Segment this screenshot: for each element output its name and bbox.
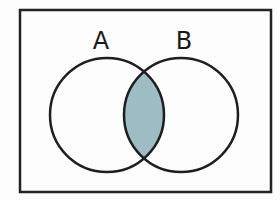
venn-diagram: A B (0, 0, 280, 200)
venn-svg: A B (0, 0, 280, 200)
set-b-label: B (176, 27, 192, 55)
set-a-label: A (93, 27, 110, 55)
